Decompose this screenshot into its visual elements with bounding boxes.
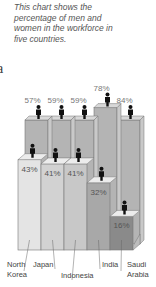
category-label: Saudi (127, 260, 147, 269)
data-label-men: 59% (47, 96, 63, 105)
data-label-women: 16% (113, 221, 129, 230)
data-label-men: 78% (93, 84, 109, 93)
category-label: Arabia (127, 270, 150, 279)
data-label-women: 32% (90, 188, 106, 197)
data-label-women: 43% (21, 165, 37, 174)
bar-men-side (140, 116, 144, 244)
data-label-women: 41% (44, 169, 60, 178)
data-label-men: 57% (24, 96, 40, 105)
category-label: Indonesia (61, 271, 94, 280)
category-label: North (7, 260, 25, 269)
data-label-women: 41% (67, 169, 83, 178)
category-label: Japan (33, 260, 53, 269)
category-label: Korea (7, 270, 28, 279)
data-label-men: 59% (70, 96, 86, 105)
chart: 84%78%59%59%57%43%41%41%32%16%NorthKorea… (0, 0, 156, 287)
category-label: India (102, 260, 119, 269)
